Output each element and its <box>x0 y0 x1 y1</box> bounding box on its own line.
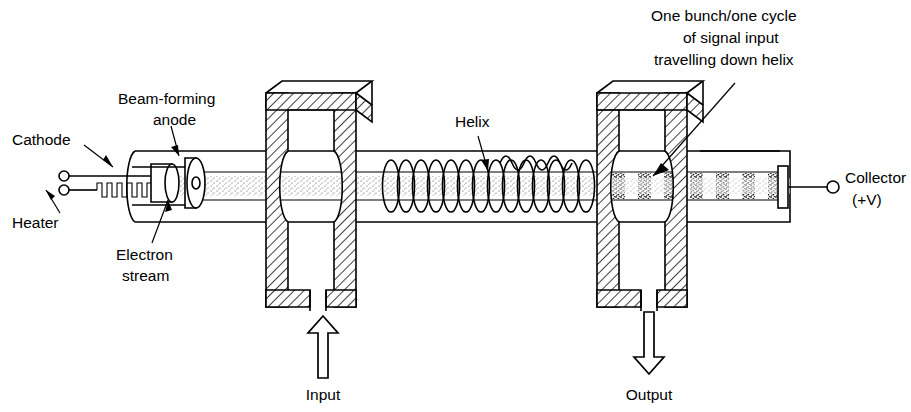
label-bunch-note-line2: of signal input <box>683 29 779 46</box>
label-beam-forming-anode-line2: anode <box>153 111 196 128</box>
label-collector-line2: (+V) <box>852 191 882 208</box>
twt-schematic-canvas: Cathode Heater Beam-forming anode Electr… <box>0 0 911 412</box>
label-electron-stream-line1: Electron <box>116 246 173 263</box>
collector-terminal-icon <box>827 181 839 193</box>
label-bunch-note-line1: One bunch/one cycle <box>651 7 797 24</box>
cathode-face <box>165 164 179 202</box>
anode-aperture <box>192 177 200 189</box>
label-beam-forming-anode-line1: Beam-forming <box>118 90 215 107</box>
heater-terminal-upper <box>59 171 69 181</box>
label-electron-stream-line2: stream <box>122 267 169 284</box>
label-cathode: Cathode <box>12 131 71 148</box>
collector-electrode <box>778 166 788 208</box>
label-bunch-note-line3: travelling down helix <box>654 51 794 68</box>
label-output: Output <box>626 386 673 403</box>
heater-terminal-lower <box>59 185 69 195</box>
label-helix: Helix <box>455 113 490 130</box>
label-input: Input <box>306 386 341 403</box>
electron-stream <box>150 173 790 199</box>
twt-diagram: Cathode Heater Beam-forming anode Electr… <box>0 0 911 412</box>
label-heater: Heater <box>12 214 59 231</box>
label-collector-line1: Collector <box>845 169 906 186</box>
